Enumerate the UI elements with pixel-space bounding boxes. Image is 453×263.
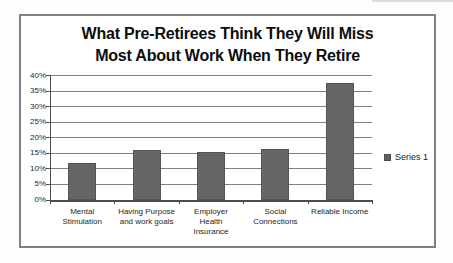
y-axis-tick-label: 35% [20, 86, 46, 96]
legend: Series 1 [384, 152, 428, 162]
chart-title-line-1: What Pre-Retirees Think They Will Miss [19, 23, 436, 45]
x-axis-category-label: Having Purposeand work goals [115, 207, 179, 227]
x-axis-category-label-line: Connections [243, 217, 307, 227]
x-axis-category-label-line: Social [243, 207, 307, 217]
y-axis-tick-label: 40% [20, 71, 46, 81]
x-axis-category-label-line: and work goals [115, 217, 179, 227]
chart-bar [326, 83, 354, 200]
chart-title: What Pre-Retirees Think They Will Miss M… [19, 23, 436, 67]
scan-artifact [372, 0, 453, 2]
x-axis-category-label-line: Employer [179, 207, 243, 217]
y-axis-tick-label: 20% [20, 133, 46, 143]
y-axis-line [50, 75, 51, 201]
chart-bar [197, 152, 225, 200]
x-axis-category-label-line: Reliable Income [308, 207, 372, 217]
x-axis-category-label-line: Stimulation [50, 217, 114, 227]
x-axis-tick [179, 200, 180, 204]
legend-label: Series 1 [395, 152, 428, 162]
x-axis-category-label-line: Health [179, 217, 243, 227]
chart-bar [133, 150, 161, 200]
x-axis-category-label-line: Mental [50, 207, 114, 217]
y-axis-tick-label: 15% [20, 148, 46, 158]
chart-title-line-2: Most About Work When They Retire [19, 45, 436, 67]
x-axis-tick [50, 200, 51, 204]
x-axis-category-label: EmployerHealthInsurance [179, 207, 243, 237]
x-axis-tick [114, 200, 115, 204]
gridline [50, 137, 372, 138]
x-axis-category-label-line: Insurance [179, 227, 243, 237]
x-axis-tick [243, 200, 244, 204]
gridline [50, 122, 372, 123]
chart-bar [261, 149, 289, 200]
chart-screenshot: What Pre-Retirees Think They Will Miss M… [0, 0, 453, 263]
x-axis-category-label: Reliable Income [308, 207, 372, 217]
x-axis-category-label: MentalStimulation [50, 207, 114, 227]
x-axis-tick [308, 200, 309, 204]
y-axis-tick-label: 25% [20, 117, 46, 127]
gridline [50, 75, 372, 76]
y-axis-tick-label: 0% [20, 195, 46, 205]
y-axis-tick-label: 10% [20, 164, 46, 174]
gridline [50, 106, 372, 107]
y-axis-tick-label: 30% [20, 102, 46, 112]
y-axis-tick-label: 5% [20, 179, 46, 189]
chart-bar [68, 163, 96, 200]
legend-swatch-icon [384, 154, 391, 161]
x-axis-tick [372, 200, 373, 204]
gridline [50, 91, 372, 92]
x-axis-category-label: SocialConnections [243, 207, 307, 227]
x-axis-category-label-line: Having Purpose [115, 207, 179, 217]
